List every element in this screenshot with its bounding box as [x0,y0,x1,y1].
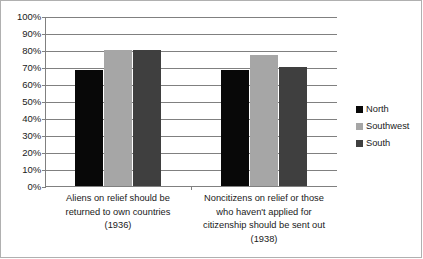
y-axis-tick-label: 70% [1,63,41,73]
bar[interactable] [104,50,132,186]
category-label-line: (1938) [193,233,335,247]
category-label-line: Noncitizens on relief or those [193,192,335,206]
legend-item-label: Southwest [366,122,409,131]
y-axis-tick-labels: 100%90%80%70%60%50%40%30%20%10%0% [1,17,41,187]
category-label-line: returned to own countries [47,206,189,220]
y-axis-tick-label: 80% [1,46,41,56]
y-axis-tick-label: 40% [1,114,41,124]
x-axis-category-labels: Aliens on relief should bereturned to ow… [45,192,337,258]
category-label-line: (1936) [47,219,189,233]
category-label-line: Aliens on relief should be [47,192,189,206]
bar[interactable] [250,55,278,186]
category-label-line: citizenship should be sent out [193,219,335,233]
y-axis-tick-label: 20% [1,148,41,158]
legend-swatch-icon [356,140,363,147]
chart-frame: 100%90%80%70%60%50%40%30%20%10%0% Aliens… [0,0,422,258]
y-axis-tick-label: 0% [1,182,41,192]
bar[interactable] [75,70,103,186]
legend-item-label: South [366,139,390,148]
bar[interactable] [133,50,161,186]
legend-item[interactable]: North [356,101,422,118]
bar[interactable] [279,67,307,186]
bar[interactable] [221,70,249,186]
legend-item-label: North [366,105,389,114]
bars-layer [45,17,337,187]
y-axis-tick-label: 100% [1,12,41,22]
y-axis-tick-label: 90% [1,29,41,39]
legend: NorthSouthwestSouth [356,101,422,152]
y-axis-tick-label: 30% [1,131,41,141]
y-axis-tick-label: 50% [1,97,41,107]
y-axis-tick-mark [42,187,45,188]
legend-item[interactable]: Southwest [356,118,422,135]
category-label-line: who haven't applied for [193,206,335,220]
legend-swatch-icon [356,123,363,130]
category-label: Aliens on relief should bereturned to ow… [45,192,191,258]
y-axis-tick-label: 60% [1,80,41,90]
category-label: Noncitizens on relief or thosewho haven'… [191,192,337,258]
legend-swatch-icon [356,106,363,113]
y-axis-tick-label: 10% [1,165,41,175]
plot-area [45,17,337,187]
legend-item[interactable]: South [356,135,422,152]
